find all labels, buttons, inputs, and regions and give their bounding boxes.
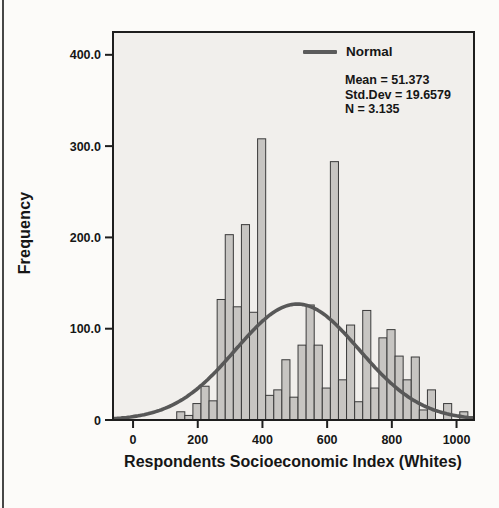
x-tick-label: 800 (381, 433, 402, 447)
stat-n: N = 3.135 (345, 102, 451, 117)
histogram-bar (314, 345, 322, 420)
histogram-bar (355, 402, 363, 420)
histogram-bar (290, 397, 298, 420)
histogram-bar (201, 386, 209, 420)
histogram-bar (282, 360, 290, 420)
histogram-bar (225, 235, 233, 420)
y-tick-label: 100.0 (70, 322, 101, 336)
x-tick-label: 400 (252, 433, 273, 447)
x-tick-label: 600 (317, 433, 338, 447)
stat-stddev: Std.Dev = 19.6579 (345, 88, 451, 103)
histogram-bar (419, 410, 427, 420)
histogram-bar (371, 388, 379, 420)
histogram-bar (363, 310, 371, 420)
histogram-bar (322, 388, 330, 420)
x-axis-title: Respondents Socioeconomic Index (Whites) (103, 453, 483, 471)
histogram-bar (298, 345, 306, 420)
x-tick-label: 0 (130, 433, 137, 447)
histogram-bar (306, 305, 314, 420)
stat-mean: Mean = 51.373 (345, 73, 451, 88)
stats-block: Mean = 51.373 Std.Dev = 19.6579 N = 3.13… (345, 73, 451, 117)
legend: Normal (303, 44, 393, 59)
y-tick-label: 400.0 (70, 48, 101, 62)
histogram-bar (266, 395, 274, 420)
y-axis-title: Frequency (16, 133, 38, 333)
histogram-bar (387, 330, 395, 420)
histogram-bar (217, 299, 225, 420)
x-tick-label: 200 (187, 433, 208, 447)
x-tick-label: 1000 (443, 433, 471, 447)
histogram-bar (193, 404, 201, 420)
histogram-bar (177, 412, 185, 420)
histogram-bar (233, 307, 241, 420)
histogram-bar (427, 390, 435, 420)
histogram-chart: 400.0300.0200.0100.0002004006008001000 F… (0, 0, 499, 508)
legend-label: Normal (346, 44, 393, 59)
histogram-bar (258, 139, 266, 420)
histogram-bar (330, 162, 338, 420)
normal-curve-legend-line (303, 50, 337, 54)
histogram-bar (411, 357, 419, 420)
y-tick-label: 200.0 (70, 231, 101, 245)
scanned-page: 400.0300.0200.0100.0002004006008001000 F… (0, 0, 499, 508)
histogram-bar (338, 380, 346, 420)
histogram-bar (209, 401, 217, 420)
y-tick-label: 0 (94, 414, 101, 428)
histogram-bar (241, 225, 249, 420)
histogram-bar (274, 390, 282, 420)
y-tick-label: 300.0 (70, 140, 101, 154)
